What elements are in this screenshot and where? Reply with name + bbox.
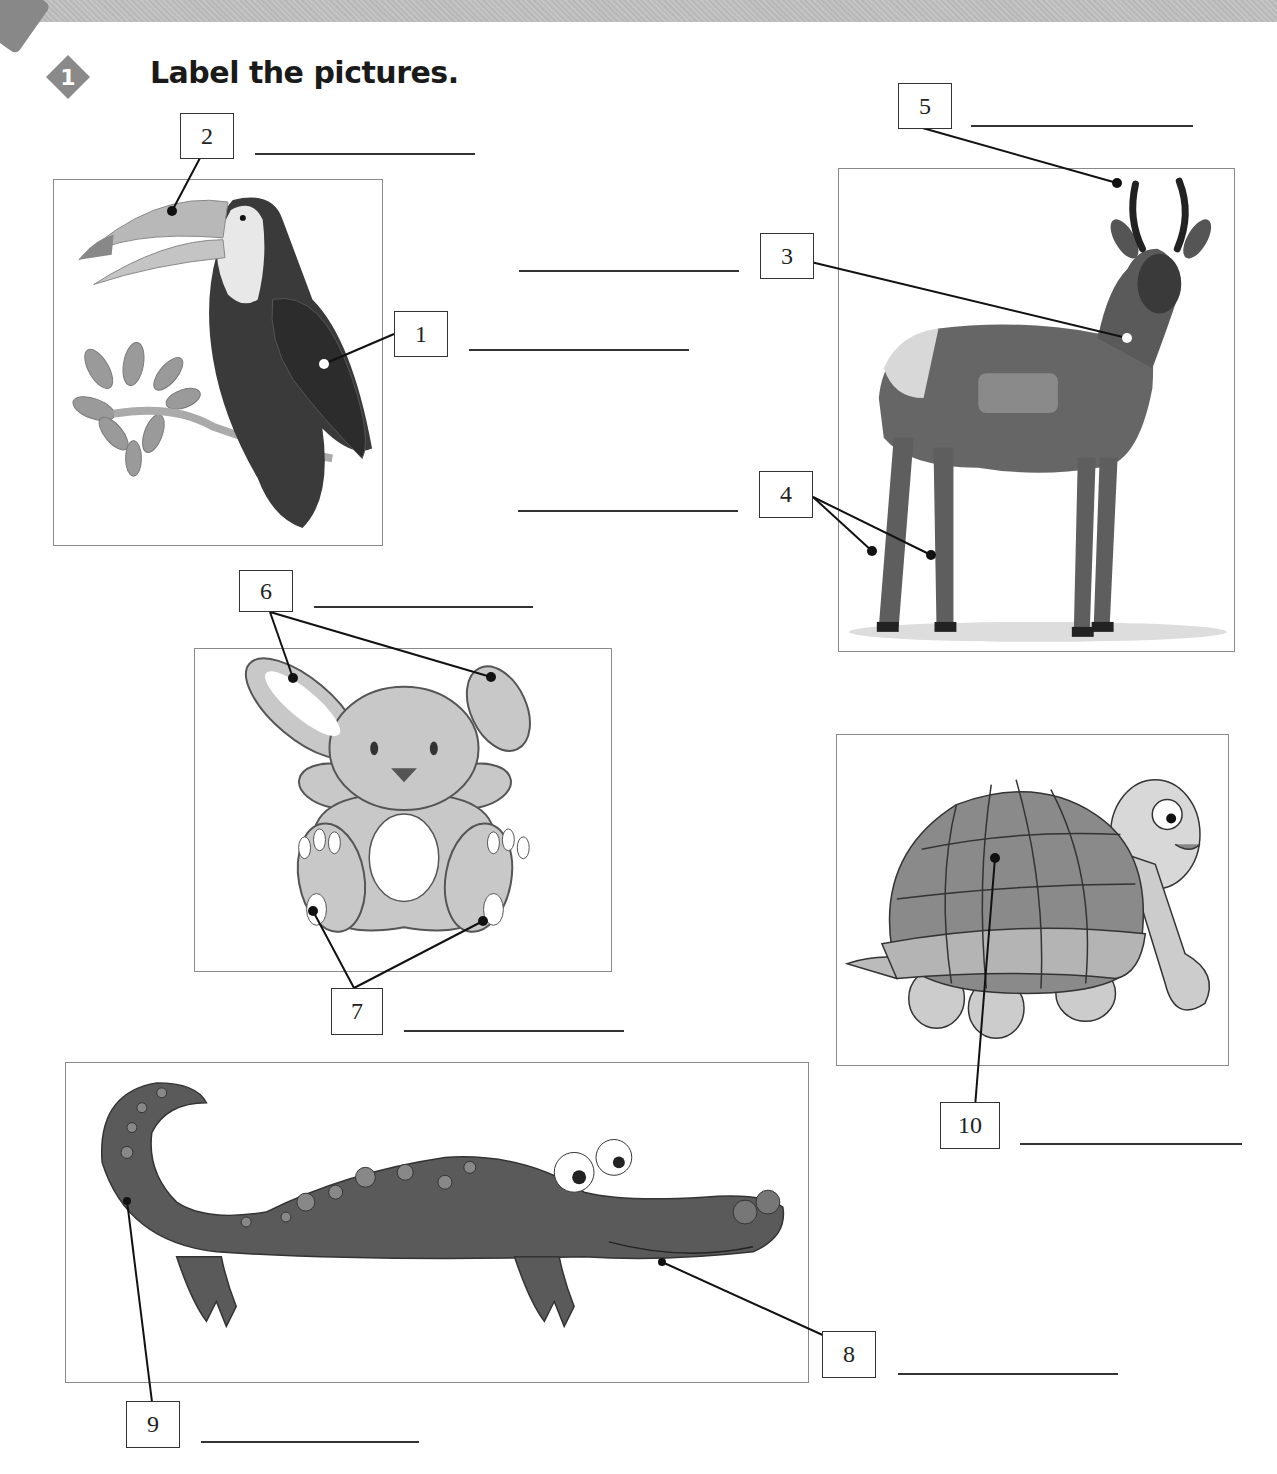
exercise-number: 1 xyxy=(46,55,90,99)
crocodile-illustration xyxy=(66,1063,808,1382)
label-box-7: 7 xyxy=(331,988,383,1035)
label-box-1: 1 xyxy=(394,311,448,357)
answer-line-9[interactable] xyxy=(201,1441,419,1443)
antelope-picture xyxy=(838,168,1235,652)
page-corner-tab xyxy=(0,0,51,55)
rabbit-picture xyxy=(194,648,612,972)
answer-line-6[interactable] xyxy=(314,606,533,608)
label-box-8: 8 xyxy=(822,1331,876,1378)
label-box-2: 2 xyxy=(180,113,234,159)
answer-line-4[interactable] xyxy=(518,510,738,512)
label-box-4: 4 xyxy=(759,471,813,518)
label-box-3: 3 xyxy=(760,233,814,279)
answer-line-1[interactable] xyxy=(469,349,689,351)
label-box-10: 10 xyxy=(940,1102,1000,1149)
answer-line-10[interactable] xyxy=(1020,1143,1242,1145)
header-band xyxy=(0,0,1277,22)
answer-line-8[interactable] xyxy=(898,1373,1118,1375)
exercise-instruction: Label the pictures. xyxy=(150,55,459,90)
answer-line-3[interactable] xyxy=(519,270,739,272)
crocodile-picture xyxy=(65,1062,809,1383)
label-box-6: 6 xyxy=(239,570,293,612)
answer-line-7[interactable] xyxy=(404,1030,624,1032)
tortoise-picture xyxy=(836,734,1229,1066)
answer-line-5[interactable] xyxy=(971,125,1193,127)
answer-line-2[interactable] xyxy=(255,153,475,155)
label-box-5: 5 xyxy=(898,83,952,129)
rabbit-illustration xyxy=(195,649,611,971)
label-box-9: 9 xyxy=(126,1401,180,1448)
antelope-illustration xyxy=(839,169,1234,651)
tortoise-illustration xyxy=(837,735,1228,1065)
toucan-illustration xyxy=(54,180,382,545)
toucan-picture xyxy=(53,179,383,546)
